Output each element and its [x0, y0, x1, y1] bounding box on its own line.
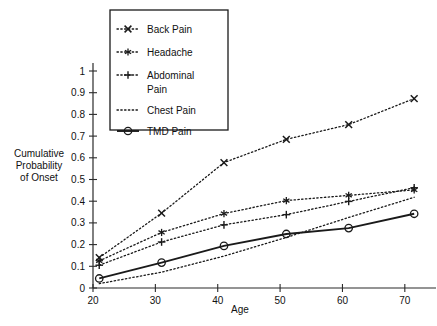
series-path — [99, 188, 414, 265]
x-tick-label: 60 — [337, 295, 349, 306]
x-tick-label: 50 — [275, 295, 287, 306]
x-axis-title: Age — [210, 304, 270, 316]
legend-label: Abdominal — [147, 70, 194, 81]
y-tick-label: 0.8 — [71, 109, 85, 120]
series-headache — [96, 186, 417, 264]
x-tick-group: 203040506070 — [87, 284, 410, 306]
y-tick-label: 0.1 — [71, 261, 85, 272]
legend: Back PainHeadacheAbdominalPainChest Pain… — [110, 10, 228, 137]
y-tick-label: 0.9 — [71, 87, 85, 98]
y-axis-title: CumulativeProbabilityof Onset — [2, 148, 76, 184]
y-tick-label: 0.7 — [71, 131, 85, 142]
y-axis-title-line2: Probability — [16, 160, 63, 171]
series-path — [99, 190, 414, 261]
y-axis-title-line3: of Onset — [20, 172, 58, 183]
y-axis-title-line1: Cumulative — [14, 148, 64, 159]
x-tick-label: 30 — [150, 295, 162, 306]
y-tick-label: 0.2 — [71, 239, 85, 250]
legend-label: Pain — [147, 84, 167, 95]
y-tick-label: 0.4 — [71, 196, 85, 207]
legend-label: TMD Pain — [147, 126, 191, 137]
legend-label: Back Pain — [147, 24, 192, 35]
series-tmd-pain — [96, 210, 418, 282]
chart-container: 00.10.20.30.40.50.60.70.80.9120304050607… — [0, 0, 437, 326]
legend-label: Headache — [147, 47, 193, 58]
x-tick-label: 20 — [87, 295, 99, 306]
y-tick-label: 1 — [79, 66, 85, 77]
legend-label: Chest Pain — [147, 105, 196, 116]
x-tick-label: 70 — [399, 295, 411, 306]
y-tick-label: 0.3 — [71, 217, 85, 228]
y-tick-label: 0 — [79, 283, 85, 294]
